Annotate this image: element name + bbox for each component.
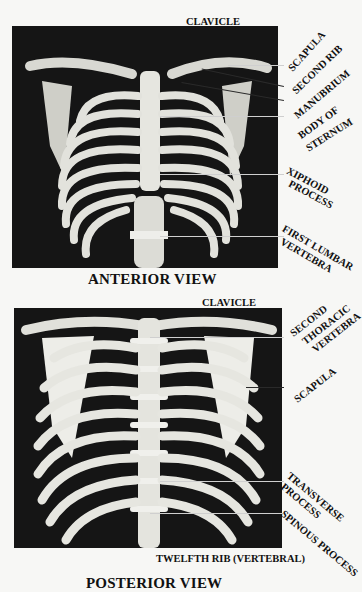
posterior-ribcage-photo	[14, 308, 282, 548]
leader-second-thoracic	[150, 337, 284, 338]
anterior-view-caption: ANTERIOR VIEW	[88, 271, 217, 288]
leader-scapula-posterior	[246, 387, 284, 388]
label-twelfth-rib: TWELFTH RIB (VERTEBRAL)	[156, 553, 305, 564]
leader-body-of-sternum	[160, 116, 284, 117]
leader-scapula-anterior	[228, 65, 284, 66]
anterior-ribcage-photo	[12, 26, 278, 268]
leader-spinous-process	[150, 513, 284, 514]
leader-transverse-process	[160, 481, 284, 482]
posterior-clavicle-label: CLAVICLE	[202, 297, 256, 308]
label-scapula-posterior: SCAPULA	[292, 365, 338, 404]
leader-xiphoid	[160, 174, 284, 175]
ribcage-posterior-illustration	[14, 308, 282, 548]
leader-first-lumbar	[160, 236, 284, 237]
posterior-view-caption: POSTERIOR VIEW	[86, 575, 222, 592]
label-spinous-process: SPINOUS PROCESS	[279, 508, 360, 579]
ribcage-anterior-illustration	[12, 26, 278, 268]
